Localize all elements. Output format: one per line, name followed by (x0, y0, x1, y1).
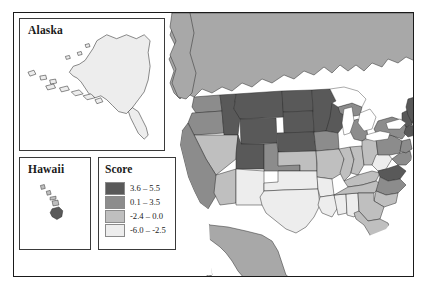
region-alaska-panhandle[interactable] (128, 108, 148, 140)
region-washington[interactable] (192, 95, 222, 113)
lake-superior (330, 87, 366, 107)
hawaii-inset[interactable]: Hawaii (19, 157, 91, 250)
region-hawaii-kauai[interactable] (40, 185, 45, 190)
legend-label-class-1: 3.6 – 5.5 (130, 184, 160, 193)
legend-item[interactable]: 3.6 – 5.5 (105, 181, 172, 195)
region-missouri[interactable] (316, 149, 344, 179)
legend-item[interactable]: -2.4 – 0.0 (105, 209, 172, 223)
region-south-dakota[interactable] (283, 111, 314, 133)
region-mississippi[interactable] (334, 194, 347, 215)
legend-swatch-class-4 (105, 224, 125, 237)
region-hawaii-oahu[interactable] (46, 190, 51, 195)
choropleth-figure: Alaska Hawaii Score 3.6 – 5.5 (0, 0, 429, 291)
legend-swatch-class-1 (105, 182, 125, 195)
region-alaska[interactable] (69, 35, 150, 114)
legend-swatch-class-2 (105, 196, 125, 209)
legend-swatch-class-3 (105, 210, 125, 223)
region-wyoming[interactable] (240, 118, 277, 144)
alaska-inset-svg (20, 19, 164, 150)
alaska-inset[interactable]: Alaska (19, 18, 165, 151)
region-arkansas[interactable] (317, 177, 334, 197)
legend-title: Score (105, 163, 132, 175)
region-canada[interactable] (169, 13, 414, 99)
legend-item[interactable]: 0.1 – 3.5 (105, 195, 172, 209)
region-montana[interactable] (234, 91, 284, 119)
map-frame: Alaska Hawaii Score 3.6 – 5.5 (13, 12, 414, 277)
region-arizona[interactable] (214, 169, 236, 205)
legend-label-class-2: 0.1 – 3.5 (130, 198, 160, 207)
legend-item[interactable]: -6.0 – -2.5 (105, 223, 172, 237)
region-hawaii-maui[interactable] (52, 200, 59, 206)
legend-label-class-3: -2.4 – 0.0 (130, 212, 163, 221)
legend-items: 3.6 – 5.5 0.1 – 3.5 -2.4 – 0.0 -6.0 – -2… (105, 181, 172, 237)
region-texas[interactable] (260, 189, 320, 233)
region-north-dakota[interactable] (282, 90, 313, 112)
legend-box[interactable]: Score 3.6 – 5.5 0.1 – 3.5 -2.4 – 0.0 -6.… (98, 157, 176, 250)
region-hawaii-molokai[interactable] (50, 196, 56, 200)
region-new-mexico[interactable] (236, 169, 264, 205)
region-oregon[interactable] (188, 111, 224, 135)
region-nebraska[interactable] (277, 132, 316, 152)
region-hawaii-big-island[interactable] (50, 207, 63, 220)
region-iowa[interactable] (314, 131, 339, 151)
alaska-inset-title: Alaska (28, 24, 63, 36)
region-oklahoma[interactable] (264, 171, 318, 191)
hawaii-inset-title: Hawaii (28, 163, 64, 175)
legend-label-class-4: -6.0 – -2.5 (130, 226, 166, 235)
